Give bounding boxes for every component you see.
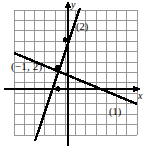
point-on-line2-upper: [63, 37, 68, 42]
coordinate-graph-figure: y x (−1, 2) (2) (1): [0, 0, 149, 148]
y-axis-label: y: [71, 0, 75, 10]
line-2-label: (2): [76, 22, 88, 33]
line-2: [35, 8, 80, 141]
point-intersection: [55, 65, 62, 72]
line-1-label: (1): [109, 107, 121, 118]
intersection-point-label: (−1, 2): [11, 61, 42, 72]
graph-canvas: [0, 0, 149, 148]
point-x-intercept-line2: [56, 86, 61, 91]
x-axis-label: x: [138, 91, 142, 101]
